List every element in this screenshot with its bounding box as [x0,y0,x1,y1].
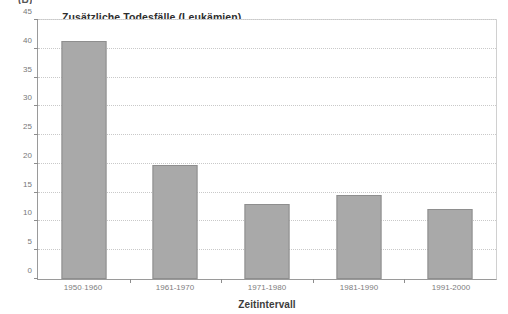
y-tick-label: 40 [23,35,32,44]
x-tick-label: 1971-1980 [221,283,313,297]
x-tick-label: 1950-1960 [37,283,129,297]
bar[interactable] [244,204,289,279]
bar-slot [130,20,222,279]
y-tick-label: 20 [23,150,32,159]
bar[interactable] [61,41,106,279]
x-axis-tick-labels: 1950-19601961-19701971-19801981-19901991… [37,283,497,297]
x-tick-label: 1981-1990 [313,283,405,297]
bar-slot [221,20,313,279]
bar-slot [313,20,405,279]
bar-slot [38,20,130,279]
bar[interactable] [336,195,381,279]
y-tick-label: 5 [28,237,32,246]
y-tick-label: 35 [23,64,32,73]
panel-letter: (B) [18,0,32,4]
y-tick-label: 30 [23,93,32,102]
x-tick-label: 1961-1970 [129,283,221,297]
y-tick-label: 15 [23,179,32,188]
y-tick-label: 0 [28,266,32,275]
y-tick-label: 25 [23,122,32,131]
x-axis-title: Zeitintervall [37,299,497,310]
plot-frame: 051015202530354045 [37,19,497,280]
bar-slot [404,20,496,279]
figure: (B) Zusätzliche Todesfälle (Leukämien) 0… [0,0,508,314]
x-tick-label: 1991-2000 [405,283,497,297]
bar-series [38,20,496,279]
bar[interactable] [153,165,198,279]
bar[interactable] [428,209,473,279]
y-tick-label: 45 [23,7,32,16]
y-tick-label: 10 [23,208,32,217]
plot-area: 051015202530354045 [38,20,496,279]
